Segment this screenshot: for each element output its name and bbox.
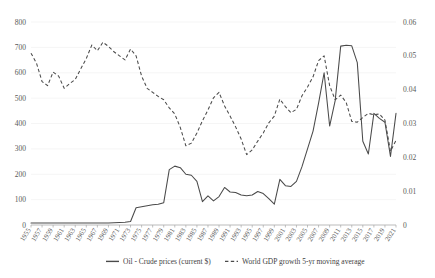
secondary-y-axis-tick-label: 0.06 <box>403 18 416 27</box>
secondary-y-axis-tick-labels: 00.010.020.030.040.050.06 <box>403 18 416 230</box>
y-axis-tick-label: 500 <box>15 94 27 103</box>
y-axis-tick-label: 200 <box>15 170 27 179</box>
y-axis-tick-label: 800 <box>15 18 27 27</box>
chart-legend: Oil - Crude prices (current $)World GDP … <box>106 257 365 266</box>
x-axis-tick-labels: 1955195719591961196319651967196919711973… <box>18 226 397 243</box>
gridlines <box>31 22 396 225</box>
secondary-y-axis-tick-label: 0.03 <box>403 119 416 128</box>
y-axis-tick-labels: 0100200300400500600700800 <box>15 18 27 230</box>
secondary-y-axis-tick-label: 0.01 <box>403 187 416 196</box>
series-line-1 <box>31 45 396 223</box>
secondary-y-axis-tick-label: 0.04 <box>403 85 416 94</box>
y-axis-tick-label: 700 <box>15 43 27 52</box>
secondary-y-axis-tick-label: 0.05 <box>403 51 416 60</box>
legend-label-1: Oil - Crude prices (current $) <box>123 257 211 266</box>
data-series-group <box>31 42 396 223</box>
y-axis-tick-label: 100 <box>15 195 27 204</box>
x-axis-tick-label: 2009 <box>317 226 331 243</box>
secondary-y-axis-tick-label: 0 <box>403 221 407 230</box>
x-axis-tick-label: 2021 <box>383 226 397 243</box>
legend-label-2: World GDP growth 5-yr moving average <box>242 257 365 266</box>
secondary-y-axis-tick-label: 0.02 <box>403 153 416 162</box>
y-axis-tick-label: 300 <box>15 144 27 153</box>
y-axis-tick-label: 400 <box>15 119 27 128</box>
chart-container: 0100200300400500600700800 00.010.020.030… <box>0 0 435 278</box>
line-chart: 0100200300400500600700800 00.010.020.030… <box>0 0 435 278</box>
y-axis-tick-label: 600 <box>15 68 27 77</box>
